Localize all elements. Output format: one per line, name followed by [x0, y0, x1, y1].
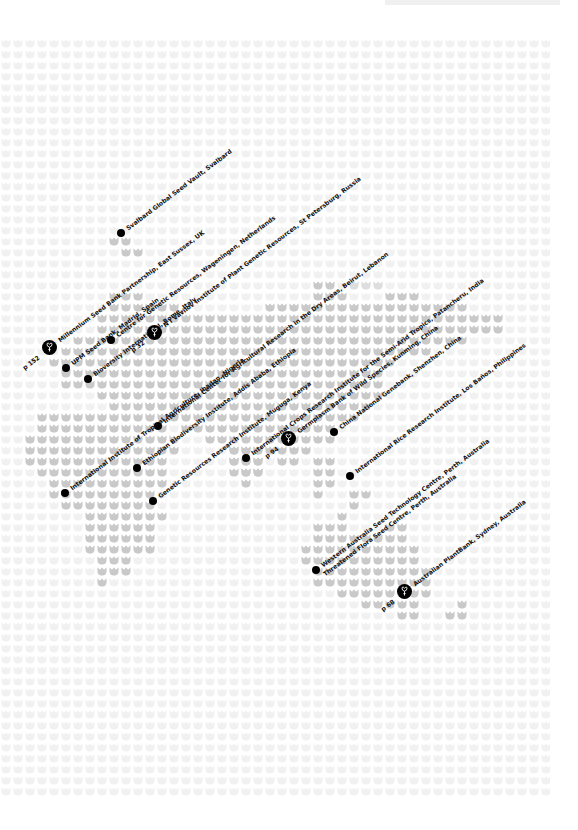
- seed-bank-pin-icon[interactable]: [281, 431, 296, 446]
- location-dot-icon[interactable]: [312, 566, 320, 574]
- location-dot-icon[interactable]: [117, 229, 125, 237]
- location-dot-icon[interactable]: [62, 364, 70, 372]
- location-dot-icon[interactable]: [330, 428, 338, 436]
- location-dot-icon[interactable]: [242, 454, 250, 462]
- seed-bank-pin-icon[interactable]: [147, 325, 162, 340]
- seed-bank-pin-icon[interactable]: [397, 584, 412, 599]
- location-dot-icon[interactable]: [133, 464, 141, 472]
- seed-bank-pin-icon[interactable]: [42, 340, 57, 355]
- location-dot-icon[interactable]: [61, 489, 69, 497]
- world-map-grid: [0, 0, 578, 830]
- location-dot-icon[interactable]: [346, 472, 354, 480]
- location-dot-icon[interactable]: [84, 375, 92, 383]
- location-dot-icon[interactable]: [149, 497, 157, 505]
- location-dot-icon[interactable]: [107, 336, 115, 344]
